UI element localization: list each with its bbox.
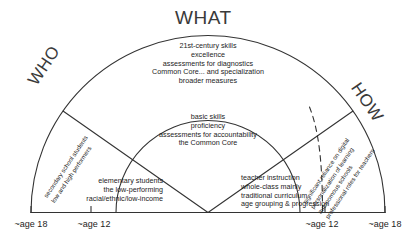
axis-label-right-inner: ~age 12 (306, 219, 339, 230)
what-outer-text: 21st-century skills excellence assessmen… (152, 42, 264, 86)
how-inner-line-4: age grouping & progression (241, 200, 329, 209)
what-inner-line-4: the Common Core (159, 139, 257, 148)
who-inner-text: elementary students the low-performing r… (86, 177, 163, 203)
axis-label-left-inner: ~age 12 (78, 219, 111, 230)
what-outer-line-5: broader measures (152, 77, 264, 86)
what-inner-text: basic skills proficiency assessments for… (159, 113, 257, 148)
how-inner-text: teacher instruction whole-class mainly t… (241, 174, 329, 209)
title-what: WHAT (175, 6, 232, 29)
who-inner-line-3: racial/ethnic/low-income (86, 195, 163, 204)
axis-label-left-outer: ~age 18 (15, 219, 48, 230)
diagram-canvas: WHAT WHO HOW 21st-century skills excelle… (0, 0, 416, 247)
axis-label-right-outer: ~age 18 (369, 219, 402, 230)
